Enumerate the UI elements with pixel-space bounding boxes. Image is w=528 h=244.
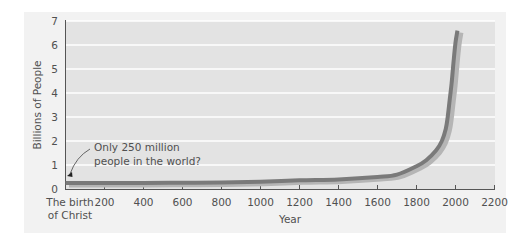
- x-tick-label: 1200: [286, 196, 313, 208]
- y-tick-label: 3: [51, 111, 58, 123]
- population-chart: The birthof Christ2004006008001000120014…: [0, 0, 528, 244]
- x-tick-label-origin: The birth: [45, 196, 94, 208]
- x-tick-label: 1000: [247, 196, 274, 208]
- y-axis-ticks: 01234567: [51, 15, 58, 195]
- x-tick-label: 1600: [364, 196, 391, 208]
- y-tick-label: 2: [51, 135, 58, 147]
- y-tick-label: 1: [51, 159, 58, 171]
- annotation-line-2: people in the world?: [94, 155, 201, 167]
- x-tick-label: 800: [211, 196, 231, 208]
- y-tick-label: 6: [51, 39, 58, 51]
- x-tick-label: 2000: [442, 196, 469, 208]
- x-axis-ticks: The birthof Christ2004006008001000120014…: [45, 185, 508, 221]
- y-tick-label: 4: [51, 87, 58, 99]
- x-tick-label: 1400: [325, 196, 352, 208]
- x-tick-label: 600: [172, 196, 192, 208]
- x-axis-title: Year: [278, 213, 302, 225]
- y-tick-label: 5: [51, 63, 58, 75]
- y-tick-label: 0: [51, 183, 58, 195]
- x-tick-label: 1800: [403, 196, 430, 208]
- y-tick-label: 7: [51, 15, 58, 27]
- x-tick-label: 2200: [481, 196, 508, 208]
- x-tick-label: 400: [133, 196, 153, 208]
- y-axis-title: Billions of People: [31, 60, 43, 149]
- x-tick-label: 200: [94, 196, 114, 208]
- x-tick-label-origin: of Christ: [48, 209, 92, 221]
- annotation-line-1: Only 250 million: [94, 141, 180, 153]
